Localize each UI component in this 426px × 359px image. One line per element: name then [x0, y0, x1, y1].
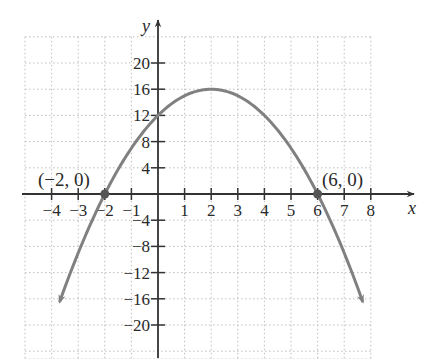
x-tick-label: 8: [367, 201, 376, 220]
y-axis-label: y: [140, 16, 150, 36]
parabola-chart: −4−3−2−112345678 20161284−4−8−12−16−20 x…: [0, 0, 426, 359]
x-tick-label: 5: [287, 201, 296, 220]
y-tick-label: −8: [132, 237, 150, 256]
root-point: [313, 190, 322, 199]
x-tick-label: −4: [43, 201, 62, 220]
root-point: [100, 190, 109, 199]
y-tick-label: −20: [123, 316, 150, 335]
y-tick-label: −16: [123, 290, 150, 309]
y-axis: [151, 20, 165, 358]
y-tick-label: 20: [133, 54, 150, 73]
y-tick-label: −12: [123, 264, 150, 283]
right-root-label: (6, 0): [322, 169, 363, 191]
x-tick-label: 4: [260, 201, 269, 220]
x-tick-label: 2: [207, 201, 216, 220]
y-tick-label: −4: [132, 211, 151, 230]
left-root-label: (−2, 0): [38, 169, 90, 191]
x-axis-label: x: [407, 198, 416, 218]
x-tick-label: 1: [180, 201, 189, 220]
y-tick-label: 16: [133, 80, 150, 99]
x-tick-label: −3: [69, 201, 87, 220]
y-tick-label: 12: [133, 106, 150, 125]
y-tick-label: 8: [142, 133, 151, 152]
x-tick-label: 3: [234, 201, 243, 220]
y-tick-label: 4: [142, 159, 151, 178]
x-tick-label: 7: [340, 201, 349, 220]
x-tick-label: 6: [313, 201, 322, 220]
